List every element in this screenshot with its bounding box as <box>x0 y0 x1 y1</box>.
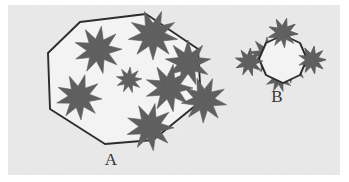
diagram-canvas: A B <box>8 5 340 175</box>
figure-panel: A B <box>8 5 340 175</box>
paper-grain-overlay <box>8 5 340 175</box>
figure-root: A B <box>0 0 349 182</box>
